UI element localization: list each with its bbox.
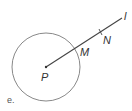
label-l: l <box>124 10 127 22</box>
label-n: N <box>103 34 111 46</box>
figure-caption: e. <box>7 95 15 105</box>
geometry-figure: P M N l e. <box>0 0 132 111</box>
center-point-p <box>45 66 47 68</box>
label-m: M <box>80 46 90 58</box>
label-p: P <box>41 71 49 83</box>
